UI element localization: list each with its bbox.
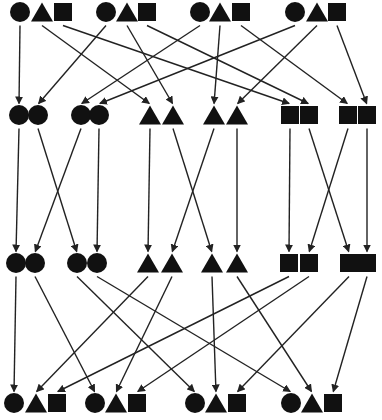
- arrow-connector: [16, 129, 19, 252]
- circle-icon: [28, 105, 48, 125]
- circle-icon: [10, 2, 30, 22]
- triangle-icon: [161, 254, 183, 273]
- triangle-icon: [306, 3, 328, 22]
- circle-icon: [87, 253, 107, 273]
- arrow-connector: [97, 129, 99, 252]
- circle-icon: [25, 253, 45, 273]
- square-icon: [128, 394, 146, 412]
- circle-icon: [96, 2, 116, 22]
- square-icon: [300, 254, 318, 272]
- triangle-icon: [31, 3, 53, 22]
- circle-icon: [89, 105, 109, 125]
- arrow-connector: [14, 277, 16, 392]
- square-icon: [358, 254, 376, 272]
- square-icon: [358, 106, 376, 124]
- triangle-icon: [162, 106, 184, 125]
- arrow-connector: [97, 277, 290, 392]
- arrow-connector: [148, 129, 150, 252]
- square-icon: [339, 106, 357, 124]
- shape-layer: [4, 2, 376, 413]
- square-icon: [281, 106, 299, 124]
- triangle-icon: [301, 394, 323, 413]
- circle-icon: [185, 393, 205, 413]
- arrow-connector: [333, 277, 367, 392]
- square-icon: [300, 106, 318, 124]
- circle-icon: [71, 105, 91, 125]
- square-icon: [328, 3, 346, 21]
- square-icon: [228, 394, 246, 412]
- arrow-connector: [212, 277, 216, 392]
- arrow-layer: [14, 26, 367, 392]
- arrow-connector: [82, 26, 200, 104]
- square-icon: [324, 394, 342, 412]
- circle-icon: [85, 393, 105, 413]
- arrow-connector: [19, 26, 20, 104]
- triangle-icon: [226, 254, 248, 273]
- square-icon: [232, 3, 250, 21]
- square-icon: [54, 3, 72, 21]
- triangle-icon: [105, 394, 127, 413]
- square-icon: [280, 254, 298, 272]
- arrow-connector: [38, 129, 77, 252]
- arrow-connector: [238, 26, 317, 104]
- arrow-connector: [147, 26, 308, 104]
- arrow-connector: [337, 26, 367, 104]
- shape-sorting-diagram: [0, 0, 382, 420]
- triangle-icon: [139, 106, 161, 125]
- circle-icon: [6, 253, 26, 273]
- triangle-icon: [203, 106, 225, 125]
- triangle-icon: [116, 3, 138, 22]
- circle-icon: [190, 2, 210, 22]
- circle-icon: [285, 2, 305, 22]
- arrow-connector: [289, 129, 290, 252]
- triangle-icon: [137, 254, 159, 273]
- arrow-connector: [100, 26, 295, 104]
- circle-icon: [281, 393, 301, 413]
- triangle-icon: [205, 394, 227, 413]
- circle-icon: [67, 253, 87, 273]
- arrow-connector: [35, 277, 95, 392]
- square-icon: [138, 3, 156, 21]
- circle-icon: [9, 105, 29, 125]
- arrow-connector: [35, 129, 81, 252]
- triangle-icon: [25, 394, 47, 413]
- arrow-connector: [237, 277, 311, 392]
- arrow-connector: [63, 26, 289, 104]
- arrow-connector: [77, 277, 194, 392]
- square-icon: [48, 394, 66, 412]
- triangle-icon: [226, 106, 248, 125]
- triangle-icon: [201, 254, 223, 273]
- triangle-icon: [209, 3, 231, 22]
- square-icon: [340, 254, 358, 272]
- circle-icon: [4, 393, 24, 413]
- arrow-connector: [214, 26, 220, 104]
